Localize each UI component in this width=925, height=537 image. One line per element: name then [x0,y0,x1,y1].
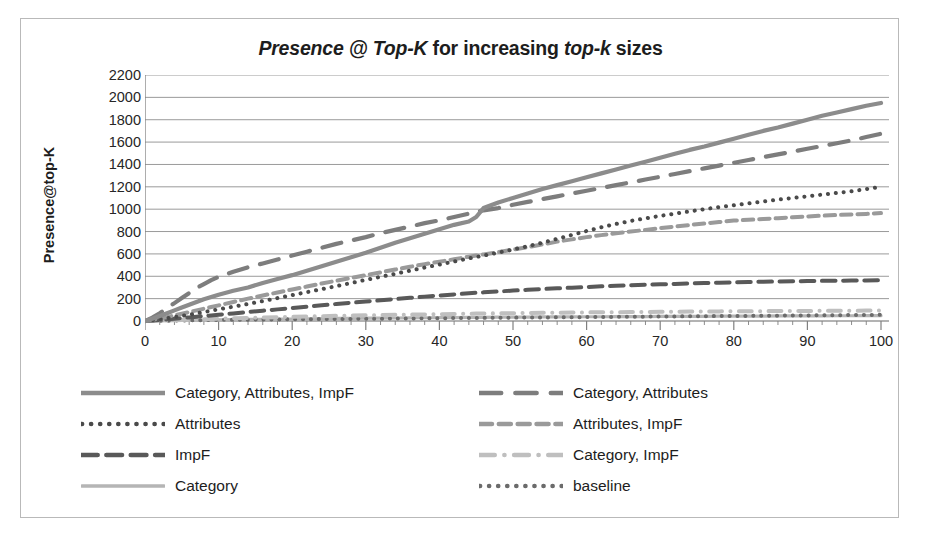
legend-column-left: Category, Attributes, ImpFAttributesImpF… [81,377,481,501]
legend-line-icon [81,479,165,493]
plot-area [145,75,881,321]
legend-item[interactable]: Category, Attributes, ImpF [81,377,481,408]
legend-line-icon [81,386,165,400]
legend-line-icon [81,448,165,462]
legend-swatch-icon [81,386,165,400]
y-tick-label: 400 [97,269,141,284]
y-tick-label: 600 [97,247,141,262]
legend-swatch-icon [81,417,165,431]
chart-title: Presence @ Top-K for increasing top-k si… [21,37,900,60]
x-tick-label: 20 [272,333,312,349]
legend-swatch-icon [479,448,563,462]
legend-swatch-icon [81,479,165,493]
x-tick-label: 60 [567,333,607,349]
x-tick-label: 0 [125,333,165,349]
legend-swatch-icon [479,417,563,431]
x-tick-label: 30 [346,333,386,349]
legend-item-label: Attributes, ImpF [573,415,682,433]
legend-item-label: Category, Attributes [573,384,708,402]
x-tick-label: 70 [640,333,680,349]
series-line [145,213,881,321]
legend-line-icon [81,417,165,431]
y-axis-tick-labels: 2200200018001600140012001000800600400200… [79,75,141,321]
y-tick-label: 2200 [97,68,141,83]
chart-title-part1: Presence @ Top-K [258,37,427,59]
legend-line-icon [479,386,563,400]
legend-item[interactable]: Attributes, ImpF [479,408,879,439]
legend-item[interactable]: baseline [479,470,879,501]
x-tick-label: 40 [419,333,459,349]
legend-line-icon [479,417,563,431]
legend-line-icon [479,479,563,493]
y-tick-label: 800 [97,225,141,240]
legend-item-label: ImpF [175,446,210,464]
y-tick-label: 1800 [97,113,141,128]
y-tick-label: 1000 [97,202,141,217]
legend-item-label: Attributes [175,415,240,433]
x-tick-label: 50 [493,333,533,349]
legend-item-label: Category [175,477,238,495]
legend-swatch-icon [81,448,165,462]
x-tick-label: 10 [199,333,239,349]
legend-item[interactable]: ImpF [81,439,481,470]
chart-title-part2: for increasing [427,37,564,59]
legend-item-label: Category, ImpF [573,446,679,464]
y-tick-label: 1200 [97,180,141,195]
chart-title-part4: sizes [611,37,663,59]
y-tick-label: 0 [97,314,141,329]
y-tick-label: 2000 [97,90,141,105]
legend-item-label: Category, Attributes, ImpF [175,384,354,402]
legend-item[interactable]: Category [81,470,481,501]
chart-legend: Category, Attributes, ImpFAttributesImpF… [81,377,881,502]
chart-title-part3: top-k [564,37,611,59]
y-tick-label: 1400 [97,157,141,172]
legend-item-label: baseline [573,477,631,495]
y-axis-title: Presence@top-K [41,125,57,285]
y-tick-label: 200 [97,292,141,307]
x-axis-tick-labels: 0102030405060708090100 [145,333,905,355]
x-tick-label: 90 [787,333,827,349]
x-tick-label: 100 [861,333,901,349]
legend-swatch-icon [479,386,563,400]
legend-column-right: Category, AttributesAttributes, ImpFCate… [479,377,879,501]
legend-swatch-icon [479,479,563,493]
legend-line-icon [479,448,563,462]
chart-frame: Presence @ Top-K for increasing top-k si… [20,18,899,518]
chart-svg [145,75,905,335]
legend-item[interactable]: Attributes [81,408,481,439]
series-line [145,134,881,321]
series-line [145,103,881,321]
legend-item[interactable]: Category, Attributes [479,377,879,408]
x-tick-label: 80 [714,333,754,349]
y-tick-label: 1600 [97,135,141,150]
legend-item[interactable]: Category, ImpF [479,439,879,470]
